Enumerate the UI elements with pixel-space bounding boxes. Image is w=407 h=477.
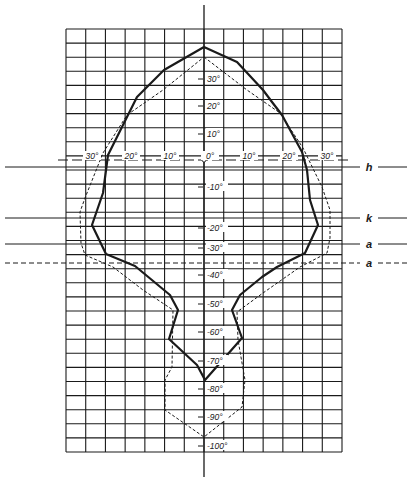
horizontal-tick-label: 20° (282, 151, 296, 161)
diagram-canvas: hkaa 30°20°10°0°10°20°30°30°20°10°-10°-2… (0, 0, 407, 477)
vertical-tick-label: -40° (207, 270, 223, 280)
vertical-tick-label: 10° (207, 129, 220, 139)
horizontal-tick-label: 0° (206, 151, 215, 161)
vertical-tick-label: 30° (207, 74, 220, 84)
vertical-tick-label: -50° (207, 299, 223, 309)
vertical-tick-label: -30° (207, 243, 223, 253)
horizontal-tick-label: 10° (243, 151, 256, 161)
vertical-tick-label: 20° (206, 101, 220, 111)
horizontal-tick-label: 10° (164, 151, 177, 161)
vertical-tick-label: -70° (207, 356, 223, 366)
solid-field-boundary (92, 47, 318, 380)
vertical-tick-label: -10° (207, 182, 223, 192)
horizontal-tick-label: 30° (321, 151, 334, 161)
vertical-tick-label: -60° (207, 327, 223, 337)
reference-label-k: k (366, 212, 373, 224)
horizontal-tick-label: 20° (124, 151, 138, 161)
reference-label-a: a (366, 257, 372, 269)
vertical-tick-label: -80° (207, 384, 223, 394)
curves (80, 47, 330, 437)
reference-lines: hkaa (5, 161, 407, 269)
horizontal-tick-label: 30° (86, 151, 99, 161)
vertical-tick-label: -100° (207, 441, 228, 451)
visual-field-diagram: hkaa 30°20°10°0°10°20°30°30°20°10°-10°-2… (0, 0, 407, 477)
vertical-tick-label: -90° (207, 412, 223, 422)
reference-label-h: h (366, 161, 373, 173)
vertical-tick-label: -20° (207, 223, 223, 233)
reference-label-a: a (366, 238, 372, 250)
